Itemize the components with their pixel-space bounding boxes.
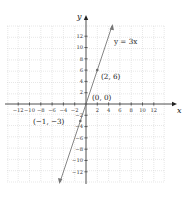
x-tick-label: 10 — [139, 107, 146, 113]
y-tick-label: 8 — [80, 56, 83, 62]
point-label-neg1-neg3: (−1, −3) — [33, 117, 65, 126]
x-tick-label: 4 — [107, 107, 111, 113]
x-tick-label: −8 — [37, 107, 45, 113]
y-tick-label: 2 — [80, 89, 83, 95]
line-arrow-bottom-icon — [58, 178, 62, 184]
x-tick-label: −12 — [13, 107, 24, 113]
x-axis-label: x — [177, 106, 182, 115]
y-tick-label: −10 — [72, 157, 83, 163]
point-label-2-6: (2, 6) — [101, 72, 121, 81]
y-axis-label: y — [76, 12, 82, 21]
x-tick-label: −4 — [60, 107, 68, 113]
x-tick-label: 2 — [96, 107, 99, 113]
x-tick-label: 12 — [150, 107, 157, 113]
point-label-0-0: (0, 0) — [92, 93, 112, 102]
x-tick-label: −10 — [24, 107, 35, 113]
x-tick-label: 6 — [118, 107, 121, 113]
y-tick-label: 12 — [76, 33, 83, 39]
line-arrow-top-icon — [110, 24, 114, 30]
point-0-0 — [85, 103, 88, 106]
equation-label: y = 3x — [113, 37, 137, 46]
x-tick-label: −6 — [48, 107, 56, 113]
y-tick-label: −8 — [75, 146, 83, 152]
y-tick-label: 6 — [80, 67, 83, 73]
y-axis-arrow-icon — [84, 15, 88, 20]
coordinate-plane-chart: −12 −10 −8 −6 −4 −2 2 4 6 8 10 12 12 10 … — [0, 0, 191, 197]
y-tick-label: 10 — [76, 44, 83, 50]
y-tick-label: −12 — [72, 169, 83, 175]
point-neg1-neg3 — [79, 120, 82, 123]
y-tick-label: −6 — [75, 135, 83, 141]
x-tick-label: 8 — [130, 107, 133, 113]
point-2-6 — [96, 69, 99, 72]
y-tick-label: 4 — [80, 78, 84, 84]
